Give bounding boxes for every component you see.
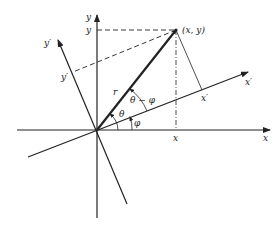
- x-prime-axis-label: x′: [245, 77, 252, 87]
- x-prime-projection-label: x′: [201, 93, 208, 103]
- theta-label: θ: [119, 109, 125, 119]
- y-axis-label: y: [85, 12, 92, 22]
- phi-label: φ: [134, 118, 141, 128]
- projection-to-x-prime: [176, 30, 202, 90]
- point-marker: [174, 28, 177, 31]
- x-axis-label: x: [263, 133, 268, 143]
- y-prime-axis-label: y′: [43, 38, 51, 48]
- y-prime-projection-label: y′: [60, 72, 68, 82]
- rotation-diagram: (x, y) y y y′ y′ x′ x′ x x r θ φ θ − φ: [0, 0, 280, 228]
- y-projection-label: y: [85, 25, 92, 35]
- phi-arc: [130, 117, 132, 130]
- theta-minus-phi-label: θ − φ: [130, 95, 156, 105]
- theta-arc: [110, 114, 118, 130]
- radius-label: r: [113, 87, 118, 97]
- x-prime-axis: [28, 72, 248, 157]
- point-label: (x, y): [182, 25, 205, 35]
- x-projection-label: x: [173, 133, 178, 143]
